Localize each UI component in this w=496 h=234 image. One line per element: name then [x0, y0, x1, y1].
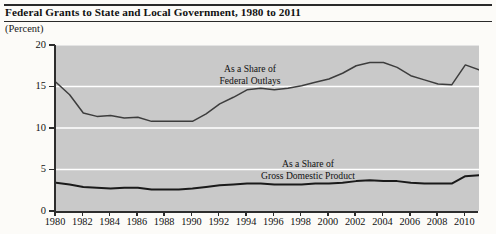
- series-label-federal-outlays-line1: As a Share of: [195, 63, 305, 75]
- x-tick-label: 2010: [447, 217, 481, 227]
- y-tick-label: 10: [20, 123, 46, 134]
- series-label-federal-outlays: As a Share of Federal Outlays: [195, 63, 305, 86]
- y-tick-label: 20: [20, 40, 46, 51]
- y-tick-mark: [49, 169, 55, 171]
- series-label-gdp: As a Share of Gross Domestic Product: [248, 158, 368, 181]
- chart-figure: Federal Grants to State and Local Govern…: [0, 0, 496, 234]
- y-tick-mark: [49, 44, 55, 46]
- y-tick-label: 5: [20, 164, 46, 175]
- series-label-gdp-line1: As a Share of: [248, 158, 368, 170]
- y-tick-label: 15: [20, 81, 46, 92]
- header-rule-bottom: [4, 21, 492, 22]
- y-tick-label: 0: [20, 206, 46, 217]
- chart-title: Federal Grants to State and Local Govern…: [5, 6, 301, 18]
- y-tick-mark: [49, 127, 55, 129]
- y-tick-mark: [49, 86, 55, 88]
- x-axis-line: [54, 211, 478, 213]
- y-axis-unit-label: (Percent): [5, 23, 43, 34]
- series-label-gdp-line2: Gross Domestic Product: [248, 170, 368, 182]
- series-label-federal-outlays-line2: Federal Outlays: [195, 75, 305, 87]
